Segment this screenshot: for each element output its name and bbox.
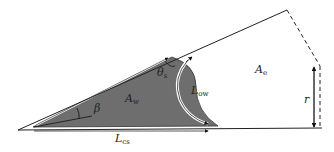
bottom-boundary-line bbox=[18, 128, 322, 130]
label-A-e: Ae bbox=[255, 64, 267, 77]
label-A-w: Aw bbox=[125, 93, 139, 106]
dashed-outer-line bbox=[287, 10, 320, 66]
label-theta-s: θs bbox=[157, 67, 167, 80]
label-beta: β bbox=[94, 103, 100, 114]
label-L-ow: Low bbox=[191, 85, 209, 98]
label-L-cs: Lcs bbox=[115, 133, 130, 146]
label-r: r bbox=[304, 94, 309, 105]
wedge-diagram: β θs Aw Ae Low Lcs r bbox=[0, 0, 334, 152]
